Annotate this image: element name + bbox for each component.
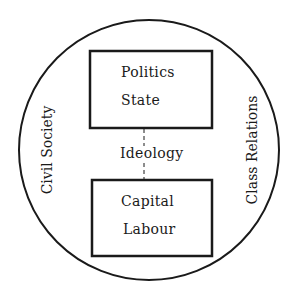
- bottom-box: [92, 180, 212, 256]
- right-label: Class Relations: [244, 95, 260, 205]
- top-box: [90, 51, 212, 128]
- left-label: Civil Society: [39, 105, 55, 195]
- top-box-line1: Politics: [121, 64, 175, 80]
- bottom-box-line1: Capital: [121, 193, 174, 209]
- top-box-line2: State: [121, 92, 160, 108]
- bottom-box-line2: Labour: [123, 221, 176, 237]
- connector-label: Ideology: [120, 145, 183, 161]
